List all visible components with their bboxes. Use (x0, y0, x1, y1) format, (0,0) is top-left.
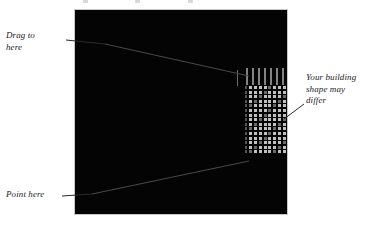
building-window (249, 137, 252, 140)
building-window (283, 127, 286, 130)
building-window (283, 118, 286, 121)
building-window (259, 100, 262, 103)
building-window (273, 137, 276, 140)
building-window (264, 146, 267, 149)
building-window (259, 146, 262, 149)
building-window (245, 91, 247, 94)
annotation-building-line2: shape may (306, 84, 364, 96)
building-window-row (243, 123, 288, 126)
building-window (249, 95, 252, 98)
building-window (278, 146, 281, 149)
building-mast (237, 70, 238, 86)
building-window (278, 86, 281, 89)
building-roof-stripe (282, 68, 284, 85)
building-roof-stripe (270, 68, 272, 85)
building-window (249, 109, 252, 112)
building-window (268, 123, 271, 126)
annotation-point-line1: Point here (6, 189, 68, 201)
building-window-row (243, 146, 288, 149)
annotation-building-line1: Your building (306, 72, 364, 84)
building-window (245, 86, 247, 89)
building-window-row (243, 132, 288, 135)
building-roof-stripe (264, 68, 266, 85)
viewport-canvas[interactable] (75, 10, 287, 214)
building-window-row (243, 141, 288, 144)
building-window (283, 137, 286, 140)
building-window (268, 104, 271, 107)
building-window (264, 127, 267, 130)
illustration-figure: Drag to here Point here Your building sh… (0, 0, 367, 228)
building-window (259, 127, 262, 130)
annotation-drag-line1: Drag to (6, 30, 64, 42)
building-window (254, 123, 257, 126)
building-window (259, 118, 262, 121)
building-window (283, 123, 286, 126)
building-window (249, 114, 252, 117)
building-window (245, 150, 247, 153)
building-window (249, 127, 252, 130)
caption-remnant-mark (83, 0, 88, 3)
building-window (268, 118, 271, 121)
building-window (249, 150, 252, 153)
building-window (259, 104, 262, 107)
building-window (273, 150, 276, 153)
building-window (283, 141, 286, 144)
building-window (259, 137, 262, 140)
building-window (278, 137, 281, 140)
building-window (273, 127, 276, 130)
building-window (259, 91, 262, 94)
building-window (245, 137, 247, 140)
building-window-row (243, 150, 288, 153)
building-window (254, 109, 257, 112)
building-window (278, 104, 281, 107)
building-window (268, 150, 271, 153)
building-window (254, 141, 257, 144)
building-window (278, 132, 281, 135)
building-window (264, 86, 267, 89)
building-window (283, 114, 286, 117)
building-window-row (243, 91, 288, 94)
building-window (249, 100, 252, 103)
building-window (249, 91, 252, 94)
building-window (245, 100, 247, 103)
building-window (278, 123, 281, 126)
building-window-row (243, 114, 288, 117)
building-window (278, 150, 281, 153)
3d-viewport[interactable] (74, 9, 288, 215)
annotation-your-building: Your building shape may differ (306, 72, 364, 107)
building-window (268, 91, 271, 94)
building-window (254, 95, 257, 98)
building-model (243, 68, 288, 164)
building-window (283, 86, 286, 89)
building-window (254, 127, 257, 130)
building-window (249, 146, 252, 149)
building-window (264, 109, 267, 112)
building-window-row (243, 137, 288, 140)
building-window (249, 132, 252, 135)
building-window (283, 91, 286, 94)
building-window (268, 95, 271, 98)
building-window (264, 100, 267, 103)
building-window-row (243, 118, 288, 121)
building-window (254, 150, 257, 153)
building-window (254, 118, 257, 121)
building-window (264, 137, 267, 140)
building-roof-stripes (246, 68, 284, 85)
building-window (245, 114, 247, 117)
building-window (273, 118, 276, 121)
building-window (273, 123, 276, 126)
building-window (249, 104, 252, 107)
building-window (254, 91, 257, 94)
building-window (283, 146, 286, 149)
building-window (245, 118, 247, 121)
building-window (278, 141, 281, 144)
building-window (278, 100, 281, 103)
building-window (254, 104, 257, 107)
building-window (273, 91, 276, 94)
building-window (273, 146, 276, 149)
building-window-row (243, 104, 288, 107)
building-window (273, 86, 276, 89)
building-roof-stripe (252, 68, 254, 85)
building-window (259, 109, 262, 112)
annotation-drag-to-here: Drag to here (6, 30, 64, 53)
